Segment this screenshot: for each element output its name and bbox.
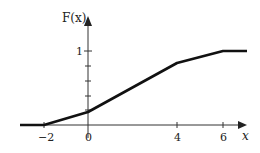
y-tick-label-1: 1 (76, 45, 83, 58)
x-tick-label-4: 4 (174, 131, 181, 144)
y-axis-label: F(x) (62, 11, 86, 25)
cdf-line (20, 51, 247, 125)
x-tick-label-neg2: −2 (38, 131, 54, 144)
cdf-chart: F(x) x 1 −2 0 4 6 (0, 0, 260, 153)
x-axis-label: x (242, 129, 249, 143)
x-tick-label-0: 0 (85, 131, 92, 144)
x-tick-label-6: 6 (220, 131, 227, 144)
x-axis-arrow-icon (238, 121, 247, 129)
